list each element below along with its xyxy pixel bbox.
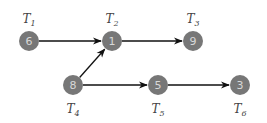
node-value: 1 bbox=[109, 35, 116, 48]
task-node-t6: 3T6 bbox=[230, 75, 250, 118]
task-node-t3: 9T3 bbox=[183, 12, 203, 51]
task-label: T1 bbox=[22, 12, 35, 28]
node-value: 8 bbox=[70, 79, 77, 92]
task-graph: 6T11T29T38T45T53T6 bbox=[0, 0, 267, 123]
node-value: 5 bbox=[155, 79, 162, 92]
task-label: T5 bbox=[151, 102, 164, 118]
task-node-t2: 1T2 bbox=[102, 12, 122, 51]
task-label: T6 bbox=[233, 102, 246, 118]
task-label: T2 bbox=[105, 12, 118, 28]
task-node-t1: 6T1 bbox=[19, 12, 39, 51]
task-label: T3 bbox=[186, 12, 199, 28]
task-label: T4 bbox=[66, 102, 79, 118]
nodes: 6T11T29T38T45T53T6 bbox=[19, 12, 250, 118]
edge-t4-to-t2 bbox=[80, 49, 105, 77]
node-value: 9 bbox=[190, 35, 197, 48]
node-value: 3 bbox=[237, 79, 244, 92]
task-node-t4: 8T4 bbox=[63, 75, 83, 118]
node-value: 6 bbox=[26, 35, 33, 48]
task-node-t5: 5T5 bbox=[148, 75, 168, 118]
